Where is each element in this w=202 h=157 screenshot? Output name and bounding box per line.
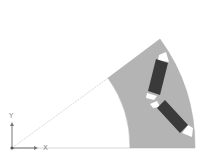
origin-marker-icon	[10, 146, 13, 149]
x-axis-label: X	[43, 144, 48, 152]
rotor-core-sector	[108, 39, 195, 148]
rotor-diagram: X Y	[0, 0, 202, 157]
construction-line-angled	[12, 78, 108, 148]
y-axis-arrow-icon	[10, 122, 14, 126]
y-axis-label: Y	[8, 112, 14, 120]
x-axis-arrow-icon	[34, 146, 38, 150]
